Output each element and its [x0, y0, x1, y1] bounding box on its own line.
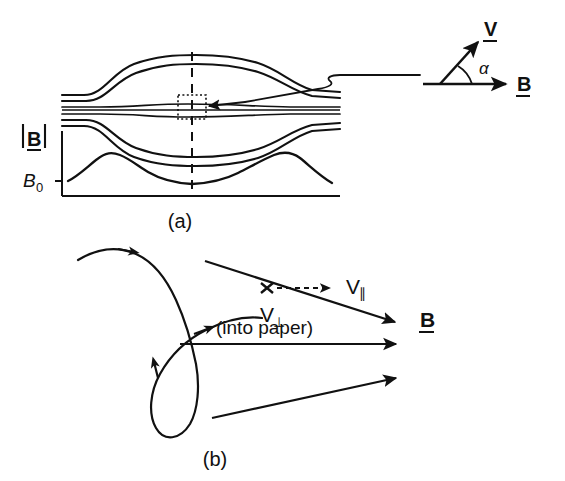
panel-b-b-label: B: [420, 308, 435, 331]
figure-root: V α B B B: [0, 0, 565, 481]
b-field-arrow-upper: [205, 261, 395, 322]
physics-figure: V α B B B: [0, 0, 565, 481]
inset-v-vector-arrow: [440, 42, 478, 84]
field-line-lower-outer: [62, 126, 340, 166]
panel-a-caption: (a): [168, 210, 192, 232]
field-line-lower-inner: [62, 120, 340, 157]
v-parallel-label: V ∥: [346, 275, 366, 301]
panel-b-caption: (b): [203, 448, 227, 470]
v-parallel-label-letter: V: [346, 275, 360, 298]
b0-axis-tick-label: B 0: [23, 170, 43, 195]
inset-b-label: B: [517, 73, 531, 95]
bmag-axis-label: B: [23, 124, 45, 150]
panel-a-field-lines: [62, 52, 420, 196]
trajectory-arrow-1: [118, 249, 134, 252]
trajectory-arrow-2: [154, 362, 158, 378]
panel-b: V ∥ V ⊥ (into paper) B (b): [78, 249, 435, 470]
field-line-lower-axis: [62, 114, 340, 117]
b0-label-subscript: 0: [36, 180, 43, 195]
inset-v-label: V: [484, 18, 498, 40]
b0-label-letter: B: [23, 170, 36, 191]
b-field-arrow-lower: [212, 378, 396, 418]
v-perp-cross-marker: [261, 283, 273, 293]
into-paper-note: (into paper): [216, 317, 313, 338]
field-line-upper-outer: [62, 55, 340, 95]
alpha-angle-arc: [458, 66, 472, 84]
v-parallel-label-subscript: ∥: [359, 285, 366, 301]
field-line-upper-axis: [62, 104, 340, 107]
bmag-axis-label-b: B: [27, 128, 41, 150]
alpha-label: α: [479, 59, 490, 78]
panel-a-vector-inset: V α B: [423, 18, 531, 96]
